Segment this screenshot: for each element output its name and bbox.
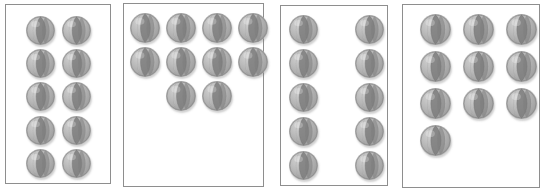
ball [202, 47, 232, 77]
ball [506, 88, 537, 119]
counting-task-scene [0, 0, 547, 192]
ball [289, 151, 318, 180]
ball [62, 16, 91, 45]
ball [289, 117, 318, 146]
ball [62, 149, 91, 178]
ball [420, 51, 451, 82]
ball [463, 14, 494, 45]
ball [26, 16, 55, 45]
ball [463, 88, 494, 119]
ball [26, 149, 55, 178]
ball [355, 151, 384, 180]
ball [420, 125, 451, 156]
ball [355, 83, 384, 112]
ball [202, 81, 232, 111]
ball [506, 14, 537, 45]
ball [238, 13, 268, 43]
ball [420, 88, 451, 119]
ball [289, 49, 318, 78]
ball [420, 14, 451, 45]
ball [62, 49, 91, 78]
ball [289, 15, 318, 44]
ball [166, 13, 196, 43]
ball-box-1 [5, 4, 111, 184]
ball [130, 47, 160, 77]
ball [463, 51, 494, 82]
ball [26, 116, 55, 145]
ball [202, 13, 232, 43]
ball [355, 117, 384, 146]
ball [238, 47, 268, 77]
ball [26, 82, 55, 111]
ball [130, 13, 160, 43]
ball [166, 47, 196, 77]
ball [355, 15, 384, 44]
ball [62, 116, 91, 145]
ball [26, 49, 55, 78]
ball [289, 83, 318, 112]
ball [166, 81, 196, 111]
ball [506, 51, 537, 82]
ball [355, 49, 384, 78]
ball [62, 82, 91, 111]
